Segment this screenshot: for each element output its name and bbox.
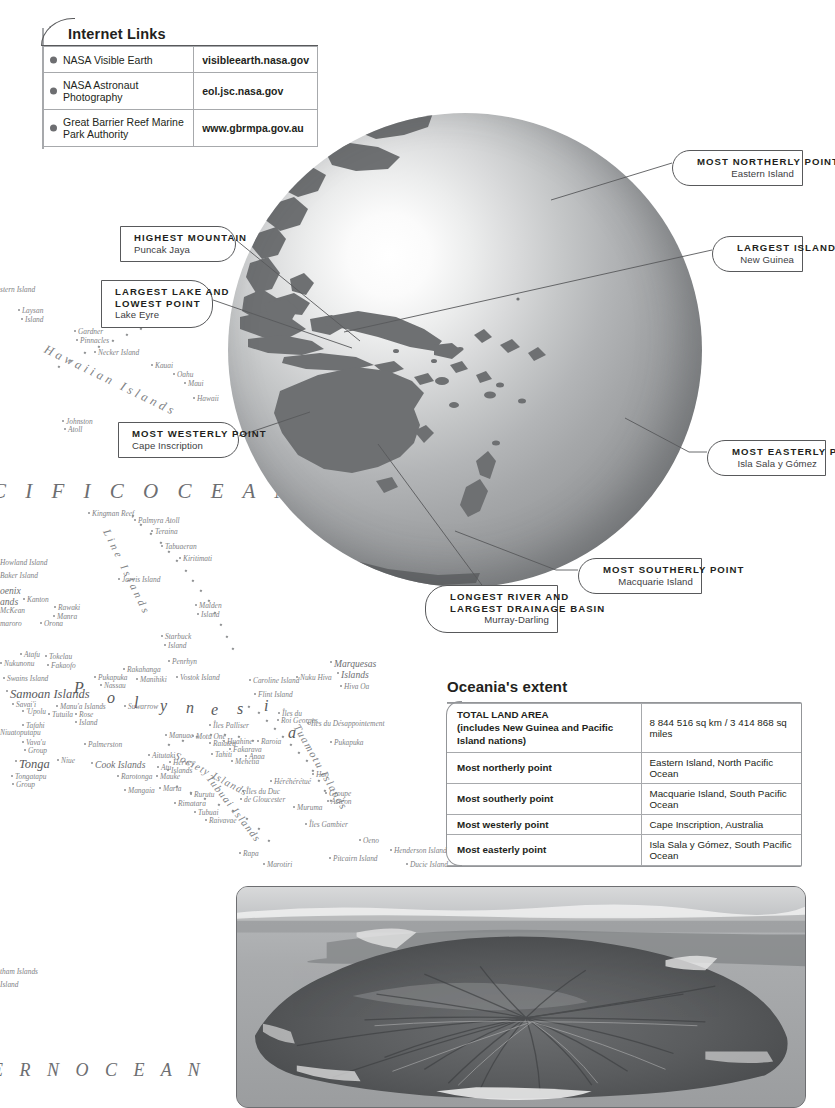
reef-marker <box>282 735 285 738</box>
map-archipelago-label: Line Islands <box>101 527 153 618</box>
map-place-label: Raiatea <box>213 739 236 748</box>
map-place-label: Hawaii <box>197 394 219 403</box>
globe-sphere <box>228 113 702 587</box>
island-marker <box>164 644 166 646</box>
reef-marker <box>298 751 301 754</box>
island-marker <box>305 823 307 825</box>
table-row: NASA Visible Earth visibleearth.nasa.gov <box>43 47 318 73</box>
island-marker <box>57 759 59 761</box>
island-marker <box>174 802 176 804</box>
map-place-label: Îles du Duc <box>246 787 280 796</box>
island-marker <box>151 364 153 366</box>
map-place-label: Îles du <box>282 709 302 718</box>
map-place-label: Tutuila <box>52 710 73 719</box>
map-place-label: Tafahi <box>26 721 45 730</box>
polynesia-letter: s <box>237 700 243 718</box>
reef-marker <box>226 635 229 638</box>
table-row: Most easterly point Isla Sala y Gómez, S… <box>447 834 801 865</box>
map-place-label: Palmyra Atoll <box>138 516 180 525</box>
reef-marker <box>324 789 327 792</box>
callout-most-northerly-point: MOST NORTHERLY POINT Eastern Island <box>672 150 803 186</box>
map-place-label: Anaa <box>249 752 265 761</box>
map-place-label: tham Islands <box>0 967 38 976</box>
island-marker <box>190 793 192 795</box>
island-marker <box>193 397 195 399</box>
island-marker <box>406 863 408 865</box>
island-marker <box>22 710 24 712</box>
island-marker <box>100 684 102 686</box>
map-place-label: Rurutu <box>194 790 215 799</box>
island-marker <box>242 790 244 792</box>
link-url[interactable]: eol.jsc.nasa.gov <box>194 73 318 110</box>
map-place-label: Atu <box>161 763 171 772</box>
reef-marker <box>258 711 261 714</box>
island-marker <box>24 749 26 751</box>
callout-subtitle: Lake Eyre <box>115 309 190 321</box>
map-archipelago-label: Tuamotu Islands <box>292 722 351 812</box>
map-place-label: Mauke <box>160 772 180 781</box>
island-marker <box>22 741 24 743</box>
map-place-label: Island <box>0 980 18 989</box>
island-marker <box>48 713 50 715</box>
island-marker <box>179 557 181 559</box>
map-place-label: Rawaki <box>58 603 80 612</box>
map-place-label: Gardner <box>78 327 103 336</box>
map-place-label: Raivavae <box>209 816 237 825</box>
bullet-icon <box>50 56 57 63</box>
link-url[interactable]: visibleearth.nasa.gov <box>194 47 318 73</box>
island-marker <box>340 685 342 687</box>
island-marker <box>307 722 309 724</box>
callout-most-easterly-point: MOST EASTERLY POINT Isla Sala y Gómez <box>707 440 826 476</box>
oceania-extent-panel: Oceania's extent TOTAL LAND AREA (includ… <box>447 678 802 867</box>
extent-value: Eastern Island, North Pacific Ocean <box>641 752 801 783</box>
island-marker <box>169 761 171 763</box>
island-marker <box>11 775 13 777</box>
island-marker <box>209 742 211 744</box>
reef-marker <box>160 541 163 544</box>
reef-marker <box>252 739 255 742</box>
map-place-label: Marotiri <box>267 860 292 869</box>
map-place-label: Mehetia <box>235 757 259 766</box>
map-place-label: Oahu <box>177 370 193 379</box>
callout-title: MOST NORTHERLY POINT <box>697 156 794 168</box>
link-name-cell: NASA Astronaut Photography <box>43 73 194 110</box>
ocean-label-southern: E R N O C E A N <box>0 1060 206 1081</box>
island-marker <box>231 760 233 762</box>
map-place-label: Island <box>168 641 186 650</box>
callout-title: MOST EASTERLY POINT <box>732 446 817 458</box>
map-place-label: Group <box>28 746 47 755</box>
island-marker <box>263 863 265 865</box>
reef-marker <box>274 727 277 730</box>
map-place-label: Cook Islands <box>95 759 145 770</box>
map-place-label: Actéon <box>331 797 352 806</box>
island-marker <box>47 664 49 666</box>
map-place-label: Pitcairn Island <box>333 854 378 863</box>
oceania-extent-heading: Oceania's extent <box>447 678 802 695</box>
map-place-label: Tokelau <box>49 652 72 661</box>
island-marker <box>75 721 77 723</box>
island-marker <box>278 712 280 714</box>
reef-marker <box>185 569 188 572</box>
map-place-label: Atafu <box>24 650 40 659</box>
reef-marker <box>214 611 217 614</box>
link-url[interactable]: www.gbrmpa.gov.au <box>194 110 318 147</box>
polynesia-letter: i <box>264 697 268 715</box>
island-marker <box>76 339 78 341</box>
callout-subtitle: Macquarie Island <box>603 576 693 588</box>
map-place-label: Muruma <box>297 803 322 812</box>
map-place-label: Island <box>201 610 219 619</box>
polynesia-letter: l <box>134 694 138 712</box>
island-marker <box>173 373 175 375</box>
reef-marker <box>204 797 207 800</box>
map-place-label: Group <box>16 780 35 789</box>
island-marker <box>359 839 361 841</box>
reef-marker <box>258 827 261 830</box>
island-marker <box>211 753 213 755</box>
reef-marker <box>196 735 199 738</box>
map-place-label: Ducie Island <box>410 860 448 869</box>
island-marker <box>117 775 119 777</box>
reef-marker <box>248 705 251 708</box>
island-marker <box>239 852 241 854</box>
callout-largest-lake-lowest-point: LARGEST LAKE AND LOWEST POINT Lake Eyre <box>101 280 213 328</box>
reef-marker <box>318 779 321 782</box>
